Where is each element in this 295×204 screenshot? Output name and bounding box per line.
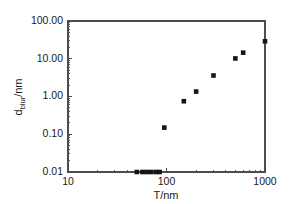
data-point [263, 39, 268, 44]
data-point [144, 170, 149, 175]
chart-figure: 0.010.101.0010.00100.00 101001000 T/nm d… [0, 0, 295, 204]
data-point [194, 89, 199, 94]
data-point [149, 170, 154, 175]
x-tick-label: 10 [62, 175, 74, 187]
scatter-plot: 0.010.101.0010.00100.00 101001000 T/nm d… [0, 0, 295, 204]
data-point [140, 170, 145, 175]
y-axis-title-subscript: blur [18, 96, 27, 109]
y-tick-label: 10.00 [37, 52, 63, 64]
data-point [241, 50, 246, 55]
x-tick-label: 1000 [253, 175, 277, 187]
data-point [135, 170, 140, 175]
y-tick-label: 0.10 [43, 127, 64, 139]
data-point [162, 125, 167, 130]
data-point [157, 170, 162, 175]
y-tick-label: 100.00 [31, 14, 63, 26]
x-tick-label: 100 [158, 175, 176, 187]
y-axis-title-suffix: /nm [12, 79, 24, 97]
data-point [233, 56, 238, 61]
x-axis-title: T/nm [153, 189, 178, 201]
y-tick-label: 0.01 [43, 165, 64, 177]
data-point [182, 99, 187, 104]
data-point [211, 73, 216, 78]
y-tick-label: 1.00 [43, 89, 64, 101]
